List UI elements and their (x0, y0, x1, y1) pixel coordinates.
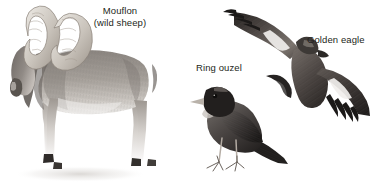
golden-eagle-beak (318, 50, 329, 58)
mouflon-ground-shadow (14, 166, 146, 182)
label-ring-ouzel: Ring ouzel (196, 62, 242, 74)
label-mouflon-subtitle: (wild sheep) (82, 17, 158, 29)
label-mouflon: Mouflon (82, 5, 158, 17)
mouflon-illustration (2, 2, 172, 188)
mouflon-muzzle-highlight (11, 82, 17, 91)
mouflon-hoof-hind-far (147, 159, 156, 166)
mouflon-hoof-front-near (43, 154, 54, 163)
mouflon-hoof-hind-near (131, 158, 141, 166)
label-golden-eagle: Golden eagle (307, 34, 365, 46)
golden-eagle-tail-crescent (266, 75, 292, 98)
ring-ouzel-feet (207, 156, 244, 171)
ring-ouzel-beak (190, 98, 204, 105)
illustration-plate: Mouflon (wild sheep) Ring ouzel Golden e… (0, 0, 371, 190)
ring-ouzel-eye (213, 94, 218, 99)
mouflon-tail (152, 64, 157, 93)
mouflon-hoof-front-far (53, 162, 62, 169)
ring-ouzel-eye-glint (214, 95, 215, 96)
